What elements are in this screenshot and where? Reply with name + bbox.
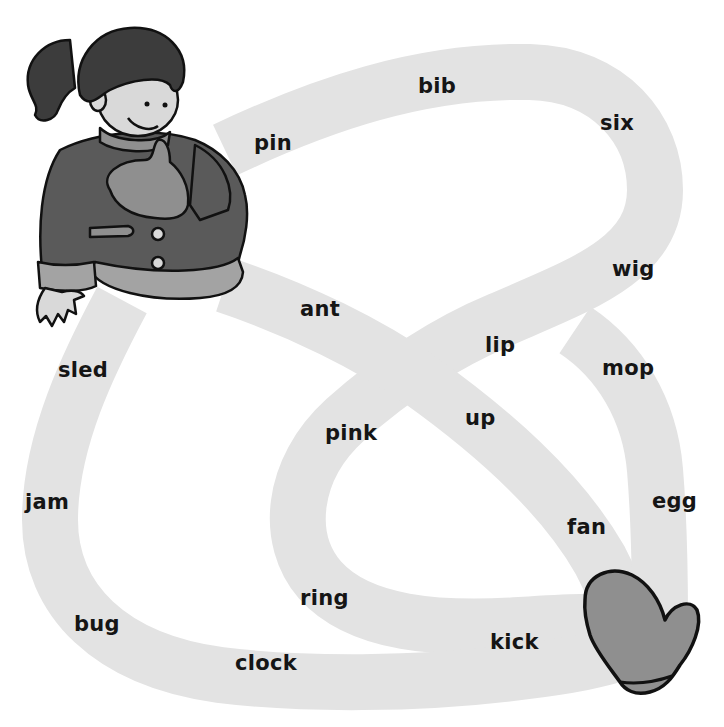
- eye-right: [163, 103, 168, 108]
- girl-hand: [37, 288, 84, 326]
- eye-left: [145, 102, 150, 107]
- coat-pocket: [90, 226, 133, 237]
- word-fan[interactable]: fan: [567, 517, 606, 538]
- word-bug[interactable]: bug: [74, 614, 120, 635]
- word-egg[interactable]: egg: [652, 491, 697, 512]
- word-clock[interactable]: clock: [235, 653, 297, 674]
- word-ring[interactable]: ring: [300, 588, 349, 609]
- word-ant[interactable]: ant: [300, 299, 340, 320]
- coat-button: [152, 257, 164, 269]
- word-sled[interactable]: sled: [58, 360, 108, 381]
- girl-illustration: [28, 28, 247, 326]
- coat-cuff: [38, 262, 96, 291]
- word-bib[interactable]: bib: [418, 76, 456, 97]
- word-kick[interactable]: kick: [490, 632, 539, 653]
- word-mop[interactable]: mop: [602, 358, 654, 379]
- word-pink[interactable]: pink: [325, 423, 377, 444]
- word-up[interactable]: up: [465, 408, 496, 429]
- coat-button: [152, 228, 164, 240]
- word-six[interactable]: six: [600, 113, 634, 134]
- word-lip[interactable]: lip: [485, 335, 515, 356]
- word-pin[interactable]: pin: [254, 133, 292, 154]
- girl-arm: [190, 145, 230, 220]
- ponytail: [28, 40, 75, 120]
- word-wig[interactable]: wig: [612, 259, 655, 280]
- word-jam[interactable]: jam: [25, 492, 69, 513]
